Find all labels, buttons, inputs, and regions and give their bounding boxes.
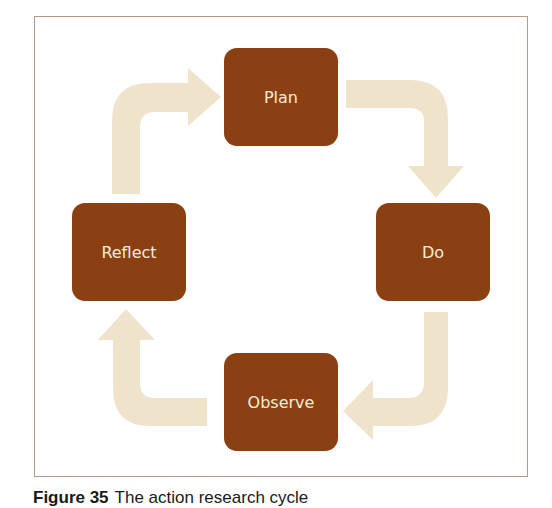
figure-number: Figure 35 — [33, 488, 109, 507]
arrow-observe-to-reflect-icon — [98, 309, 207, 426]
node-plan: Plan — [224, 48, 338, 146]
node-plan-label: Plan — [264, 88, 298, 107]
node-observe: Observe — [224, 353, 338, 451]
figure-caption: Figure 35The action research cycle — [33, 488, 308, 508]
figure-caption-text: The action research cycle — [115, 488, 309, 507]
node-observe-label: Observe — [248, 393, 315, 412]
node-reflect-label: Reflect — [101, 243, 156, 262]
arrow-plan-to-do-icon — [346, 80, 464, 198]
node-reflect: Reflect — [72, 203, 186, 301]
node-do: Do — [376, 203, 490, 301]
arrow-reflect-to-plan-icon — [112, 68, 221, 194]
node-do-label: Do — [422, 243, 444, 262]
arrow-do-to-observe-icon — [343, 312, 448, 440]
